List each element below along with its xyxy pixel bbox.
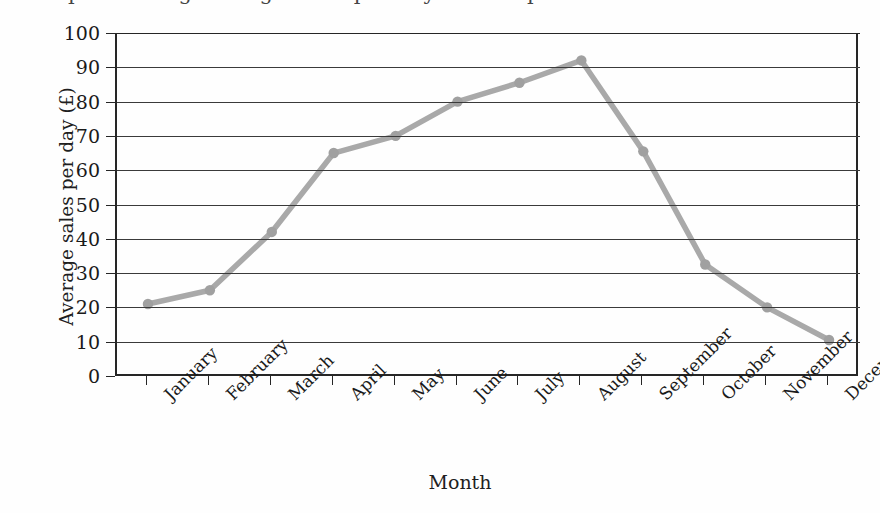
x-tick-february [208,376,209,385]
y-tick-100 [106,33,115,34]
x-tick-label-february: February [222,390,236,404]
x-tick-january [146,376,147,385]
sales-markers [143,55,834,345]
gridline-70 [117,136,860,137]
y-tick-50 [106,205,115,206]
x-tick-label-september: September [655,390,669,404]
x-tick-label-august: August [593,390,607,404]
y-tick-label-80: 80 [40,93,100,112]
y-tick-label-100: 100 [40,24,100,43]
y-tick-60 [106,170,115,171]
y-tick-10 [106,342,115,343]
gridline-10 [117,342,860,343]
data-point-february [205,285,215,295]
x-axis-title: Month [0,471,880,493]
x-tick-july [517,376,518,385]
x-tick-label-july: July [531,390,545,404]
x-axis-title-text: Month [428,471,491,493]
x-tick-june [456,376,457,385]
x-tick-may [394,376,395,385]
y-tick-label-50: 50 [40,196,100,215]
y-tick-70 [106,136,115,137]
data-point-october [700,259,710,269]
x-tick-label-november: November [779,390,793,404]
x-tick-label-october: October [717,390,731,404]
y-tick-0 [106,376,115,377]
gridline-100 [117,33,860,34]
y-tick-label-20: 20 [40,298,100,317]
gridline-40 [117,239,860,240]
y-tick-label-40: 40 [40,230,100,249]
y-tick-label-60: 60 [40,161,100,180]
gridline-50 [117,205,860,206]
y-tick-90 [106,67,115,68]
y-tick-30 [106,273,115,274]
data-point-august [576,55,586,65]
x-tick-april [332,376,333,385]
gridline-20 [117,307,860,308]
chart-page: Graph showing average sales per day in a… [0,0,880,513]
data-point-september [638,146,648,156]
x-tick-august [579,376,580,385]
x-tick-label-may: May [408,390,422,404]
y-tick-label-10: 10 [40,333,100,352]
plot-area [115,33,858,376]
chart-title-text: Graph showing average sales per day in a… [28,0,541,5]
clipped-chart-title: Graph showing average sales per day in a… [0,0,880,16]
gridline-60 [117,170,860,171]
gridline-30 [117,273,860,274]
gridline-80 [117,102,860,103]
y-tick-80 [106,102,115,103]
y-tick-40 [106,239,115,240]
y-tick-label-70: 70 [40,127,100,146]
y-tick-label-30: 30 [40,264,100,283]
x-tick-march [270,376,271,385]
data-point-march [267,227,277,237]
x-tick-label-april: April [346,390,360,404]
x-tick-december [827,376,828,385]
data-point-april [329,148,339,158]
x-tick-september [641,376,642,385]
x-tick-october [703,376,704,385]
gridline-90 [117,67,860,68]
y-tick-label-0: 0 [40,367,100,386]
y-tick-20 [106,307,115,308]
data-point-july [514,78,524,88]
x-tick-label-january: January [160,390,174,404]
x-tick-label-december: December [841,390,855,404]
y-tick-label-90: 90 [40,58,100,77]
x-tick-label-march: March [284,390,298,404]
x-tick-november [765,376,766,385]
x-tick-label-june: June [470,390,484,404]
